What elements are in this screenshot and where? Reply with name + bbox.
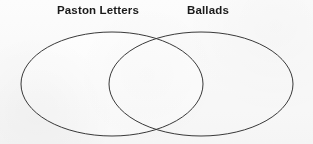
venn-diagram-figure: Paston Letters Ballads — [0, 0, 313, 144]
venn-label-layer: Paston Letters Ballads — [0, 0, 313, 144]
venn-label-left: Paston Letters — [57, 3, 139, 17]
venn-label-right: Ballads — [187, 3, 229, 17]
